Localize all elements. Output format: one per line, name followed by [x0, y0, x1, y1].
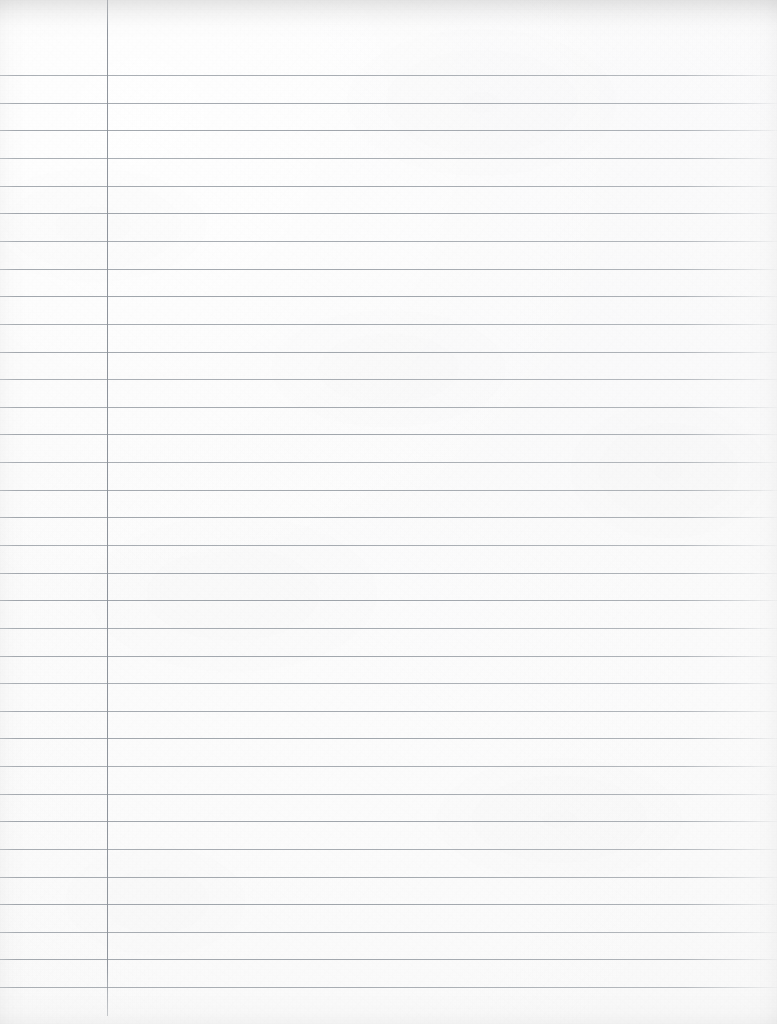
- notebook-page: [0, 0, 777, 1024]
- header-band[interactable]: [0, 0, 777, 75]
- writing-area[interactable]: [108, 75, 777, 987]
- footer-band[interactable]: [0, 987, 777, 1024]
- left-margin-column[interactable]: [0, 75, 107, 987]
